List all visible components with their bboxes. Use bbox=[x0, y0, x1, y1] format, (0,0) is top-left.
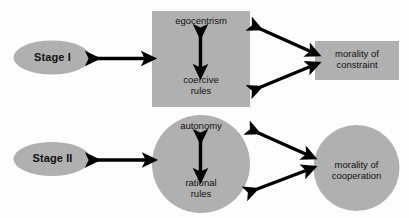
arrow-stage2-center-to-outcome-upper bbox=[254, 131, 310, 156]
stage-2-ellipse bbox=[14, 142, 91, 176]
diagram-canvas bbox=[0, 0, 409, 218]
stage-2-outcome-circle bbox=[314, 125, 400, 211]
arrow-stage2-center-to-outcome-lower bbox=[252, 169, 310, 191]
arrow-stage1-center-to-outcome-upper bbox=[256, 27, 314, 53]
moral-development-diagram: Stage I egocentrism coercive rules moral… bbox=[0, 0, 409, 218]
arrow-stage1-center-to-outcome-lower bbox=[256, 65, 314, 89]
stage-1-ellipse bbox=[14, 41, 91, 75]
stage-1-outcome-rectangle bbox=[315, 41, 399, 80]
